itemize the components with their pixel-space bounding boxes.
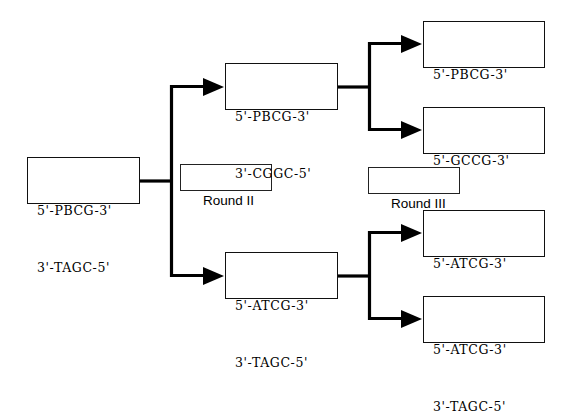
node-round3-c-top-strand: 5'-ATCG-3' (433, 254, 544, 273)
node-round2-lower-bottom-strand: 3'-TAGC-5' (235, 353, 337, 372)
node-root: 5'-PBCG-3' 3'-TAGC-5' (27, 157, 140, 204)
round3-c-arrowhead (401, 224, 422, 242)
node-round3-a-top-strand: 5'-PBCG-3' (433, 65, 544, 84)
node-round3-d: 5'-ATCG-3' 3'-TAGC-5' (423, 296, 545, 343)
round3-d-arrowhead (401, 310, 422, 328)
node-root-top-strand: 5'-PBCG-3' (37, 201, 139, 220)
node-round3-a: 5'-PBCG-3' 3'-CGGC-5' (423, 21, 545, 68)
round2-lower-arrowhead (203, 267, 224, 285)
round3-b-arrowhead (401, 121, 422, 139)
node-round3-d-top-strand: 5'-ATCG-3' (433, 340, 544, 359)
node-round3-d-bottom-strand: 3'-TAGC-5' (433, 397, 544, 415)
round2-upper-arrowhead (203, 78, 224, 96)
node-round2-lower: 5'-ATCG-3' 3'-TAGC-5' (225, 252, 338, 299)
round3-a-arrowhead (401, 35, 422, 53)
node-round3-b: 5'-GCCG-3' 3'-CGGC-5' (423, 107, 545, 154)
node-round2-upper-bottom-strand: 3'-CGGC-5' (235, 164, 337, 183)
node-root-bottom-strand: 3'-TAGC-5' (37, 258, 139, 277)
node-round2-upper: 5'-PBCG-3' 3'-CGGC-5' (225, 63, 338, 110)
node-round2-upper-top-strand: 5'-PBCG-3' (235, 107, 337, 126)
node-round3-b-top-strand: 5'-GCCG-3' (433, 151, 544, 170)
node-round2-lower-top-strand: 5'-ATCG-3' (235, 296, 337, 315)
node-round3-c: 5'-ATCG-3' 3'-TAGC-5' (423, 210, 545, 257)
